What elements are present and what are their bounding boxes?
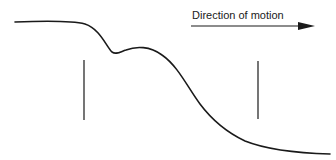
direction-arrow-head-icon xyxy=(298,22,315,30)
diagram-canvas: Direction of motion xyxy=(0,0,336,160)
diagram-svg xyxy=(0,0,336,160)
direction-label: Direction of motion xyxy=(192,9,284,21)
profile-curve xyxy=(15,21,330,154)
